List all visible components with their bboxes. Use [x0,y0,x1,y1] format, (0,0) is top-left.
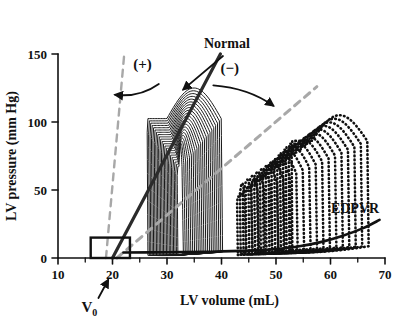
v0-arrow [98,280,108,298]
y-tick-label-50: 50 [34,183,47,198]
v0-box [91,238,130,258]
v0-label: V0 [82,299,98,318]
x-tick-label-50: 50 [270,267,283,282]
y-tick-label-0: 0 [41,251,48,266]
y-tick-label-150: 150 [28,47,48,62]
y-tick-label-100: 100 [28,115,48,130]
series-espvr-increased-contractility [106,51,125,258]
pv-loop-figure: 10203040506070050100150LV volume (mL)LV … [0,0,397,325]
x-tick-label-10: 10 [52,267,65,282]
x-tick-label-70: 70 [379,267,392,282]
positive-sign-label: (+) [133,56,152,73]
negative-arrow [213,85,273,105]
y-axis-title: LV pressure (mm Hg) [4,91,20,221]
x-axis-title: LV volume (mL) [180,293,279,309]
lv-pressure-volume-chart: 10203040506070050100150LV volume (mL)LV … [0,0,397,325]
x-tick-label-60: 60 [324,267,337,282]
negative-sign-label: (−) [220,60,239,77]
x-tick-label-40: 40 [215,267,228,282]
edpvr-label: EDPVR [331,201,380,216]
normal-label: Normal [204,36,250,51]
x-tick-label-30: 30 [161,267,174,282]
